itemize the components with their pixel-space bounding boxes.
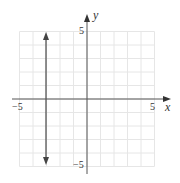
line-down-arrow-icon [43, 157, 49, 165]
y-min-label: −5 [73, 159, 84, 170]
y-axis-label: y [92, 8, 99, 22]
line-up-arrow-icon [43, 32, 49, 40]
y-max-label: 5 [79, 25, 84, 36]
coordinate-plane: −5 5 5 −5 x y [0, 0, 180, 183]
x-min-label: −5 [12, 101, 23, 112]
y-axis-arrow-icon [84, 14, 90, 22]
x-axis-label: x [164, 100, 171, 114]
x-max-label: 5 [150, 101, 155, 112]
